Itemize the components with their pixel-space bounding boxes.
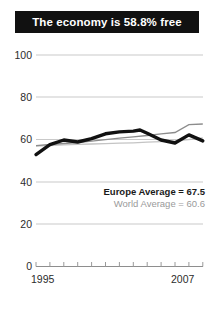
y-tick-20: 20 — [4, 219, 32, 229]
x-tick-start: 1995 — [31, 274, 54, 285]
y-tick-0: 0 — [4, 261, 32, 271]
legend-world-average: World Average = 60.6 — [70, 198, 205, 210]
x-tick-end: 2007 — [171, 274, 194, 285]
y-tick-80: 80 — [4, 92, 32, 102]
y-tick-100: 100 — [4, 50, 32, 60]
legend-europe-average: Europe Average = 67.5 — [70, 186, 205, 198]
chart-legend: Europe Average = 67.5 World Average = 60… — [70, 186, 205, 210]
series-line-country — [36, 130, 203, 155]
y-tick-40: 40 — [4, 177, 32, 187]
economy-freedom-chart: The economy is 58.8% free — [0, 0, 212, 309]
x-axis-ticks — [36, 262, 203, 267]
y-tick-60: 60 — [4, 134, 32, 144]
